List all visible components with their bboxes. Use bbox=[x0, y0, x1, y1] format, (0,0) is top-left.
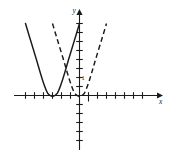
solid-parabola-curve bbox=[26, 24, 80, 97]
parabola-graph-figure: y x 1 bbox=[0, 0, 169, 164]
coordinate-plane-svg bbox=[0, 0, 169, 164]
y-axis-arrowhead bbox=[76, 9, 82, 15]
x-axis-arrowhead bbox=[157, 92, 163, 98]
